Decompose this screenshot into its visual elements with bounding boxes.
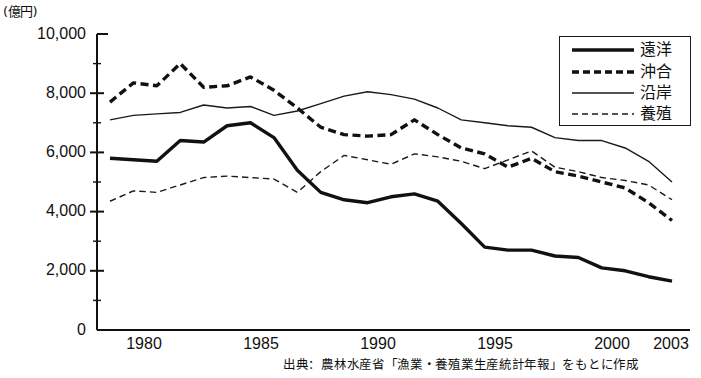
y-tick-10000: 10,000 (0, 26, 86, 42)
y-tick-label: 8,000 (46, 85, 86, 101)
source-note: 出典：農林水産省「漁業・養殖業生産統計年報」をもとに作成 (283, 358, 639, 371)
y-tick-2000: 2,000 (0, 262, 86, 278)
series-line (110, 151, 672, 201)
x-tick-label: 1990 (360, 335, 396, 352)
legend-label: 沿岸 (640, 82, 672, 104)
legend-label: 養殖 (640, 103, 672, 125)
x-tick-2003: 2003 (631, 334, 701, 354)
legend-label: 遠洋 (640, 39, 672, 61)
legend-sample-thin-solid (570, 82, 636, 104)
legend-item-okiai: 沖合 (560, 61, 692, 83)
legend-sample-thick-solid (570, 39, 636, 61)
legend: 遠洋 沖合 沿岸 養殖 (559, 36, 691, 126)
y-tick-label: 6,000 (46, 144, 86, 160)
x-tick-1990: 1990 (338, 334, 418, 354)
y-tick-0: 0 (0, 322, 86, 338)
y-major-ticks (90, 34, 108, 271)
y-tick-label: 0 (77, 322, 86, 338)
legend-sample-thin-dashed (570, 103, 636, 125)
legend-sample-thick-dashed (570, 61, 636, 83)
legend-item-yoshoku: 養殖 (560, 103, 692, 125)
x-tick-label: 1985 (243, 335, 279, 352)
series-line (110, 123, 672, 281)
y-axis-unit-label: (億円) (3, 1, 37, 20)
y-tick-4000: 4,000 (0, 203, 86, 219)
fishery-production-line-chart: (億円) 10,000 8,000 6,000 4,000 2,000 0 19… (0, 0, 701, 378)
x-tick-1985: 1985 (221, 334, 301, 354)
legend-item-enyo: 遠洋 (560, 39, 692, 61)
y-tick-6000: 6,000 (0, 144, 86, 160)
x-tick-label: 1995 (477, 335, 513, 352)
x-tick-label: 2003 (653, 335, 689, 352)
x-tick-label: 2000 (594, 335, 630, 352)
x-tick-1995: 1995 (455, 334, 535, 354)
x-tick-1980: 1980 (104, 334, 184, 354)
y-tick-8000: 8,000 (0, 85, 86, 101)
legend-label: 沖合 (640, 61, 672, 83)
y-tick-label: 4,000 (46, 203, 86, 219)
y-tick-label: 2,000 (46, 262, 86, 278)
x-tick-label: 1980 (126, 335, 162, 352)
y-tick-label: 10,000 (37, 26, 86, 42)
legend-item-engan: 沿岸 (560, 82, 692, 104)
